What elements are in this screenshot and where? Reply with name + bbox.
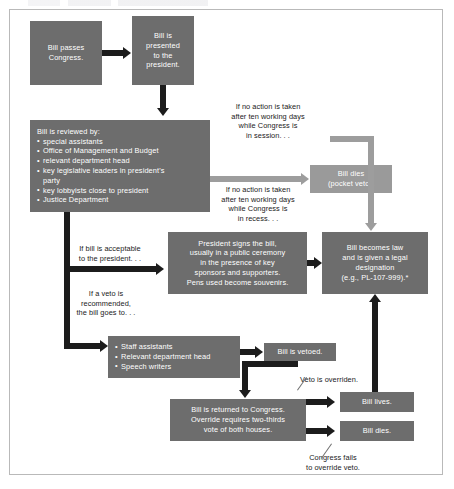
arrow-staff-to-vetoed-head (255, 346, 263, 358)
node-staff-advisors: Staff assistants Relevant department hea… (108, 336, 240, 378)
node-bill-presented-line2: presented (146, 41, 180, 51)
arrow-veto-recommended-head (100, 340, 108, 352)
annotation-recess-line4: in recess. . . (196, 214, 320, 224)
arrow-staff-to-vetoed-shaft (240, 349, 256, 355)
arrow-presented-to-reviewed-head (157, 108, 169, 116)
annotation-congress-fails: Congress fails to override veto. (286, 453, 380, 472)
arrow-acceptable-head (156, 263, 164, 275)
node-bill-returned-to-congress: Bill is returned to Congress. Override r… (170, 399, 306, 441)
node-president-signs-bill: President signs the bill, usually in a p… (168, 232, 307, 294)
node-becomes-law-line2: and is given a legal (342, 253, 407, 263)
annotation-congress-fails-line2: to override veto. (286, 463, 380, 473)
annotation-session-line4: in session. . . (206, 131, 330, 141)
arrow-passes-to-presented-shaft (102, 50, 124, 56)
node-bill-dies-label: Bill dies. (363, 426, 392, 436)
annotation-recess-line1: If no action is taken (196, 185, 320, 195)
annotation-congress-fails-line1: Congress fails (286, 453, 380, 463)
staff-item-0: Staff assistants (115, 342, 211, 352)
node-bill-dies-pocket-line1: Bill dies (338, 169, 364, 179)
review-list: Bill is reviewed by: special assistants … (37, 127, 164, 205)
annotation-acceptable-line2: to the president. . . (58, 254, 162, 264)
node-president-signs-line5: Pens used become souvenirs. (187, 278, 289, 288)
node-president-signs-line2: usually in a public ceremony (190, 248, 286, 258)
node-returned-line3: vote of both houses. (204, 425, 273, 435)
arrow-reviewed-spine-vertical (64, 212, 70, 346)
cropped-title-artifact (28, 0, 208, 6)
annotation-recess-line3: while Congress is (196, 204, 320, 214)
node-bill-vetoed-label: Bill is vetoed. (277, 347, 322, 357)
node-president-signs-line1: President signs the bill, (198, 239, 277, 249)
review-header: Bill is reviewed by: (37, 127, 164, 137)
arrow-reviewed-to-pocket-veto-shaft (210, 176, 302, 182)
arrow-lives-to-law-head (369, 294, 381, 302)
review-item-0: special assistants (37, 137, 164, 147)
node-bill-dies-pocket-veto: Bill dies (pocket veto). (310, 165, 392, 193)
node-returned-line1: Bill is returned to Congress. (191, 405, 285, 415)
diagram-frame: Bill passes Congress. Bill is presented … (9, 9, 443, 475)
arrow-vetoed-to-returned-head (239, 390, 251, 398)
arrow-lives-to-law-shaft (372, 302, 378, 392)
annotation-bill-acceptable: If bill is acceptable to the president. … (58, 244, 162, 263)
arrow-session-down-head (365, 223, 377, 231)
arrow-session-top-shaft (330, 136, 374, 142)
node-becomes-law-line4: (e.g., PL-107-999).* (342, 273, 409, 283)
arrow-signs-to-law-head (314, 257, 322, 269)
annotation-session-line1: If no action is taken (206, 102, 330, 112)
node-bill-presented-line1: Bill is (154, 31, 172, 41)
node-bill-lives-label: Bill lives. (362, 397, 392, 407)
review-item-2: relevant department head (37, 156, 164, 166)
node-bill-presented-to-president: Bill is presented to the president. (132, 16, 194, 85)
arrow-presented-to-reviewed-shaft (160, 85, 166, 109)
node-bill-dies: Bill dies. (340, 421, 414, 441)
annotation-session-line3: while Congress is (206, 121, 330, 131)
staff-item-1: Relevant department head (115, 352, 211, 362)
annotation-no-action-in-session: If no action is taken after ten working … (206, 102, 330, 141)
annotation-acceptable-line1: If bill is acceptable (58, 244, 162, 254)
node-bill-passes-congress-label: Bill passes Congress. (30, 43, 102, 63)
review-item-5: Justice Department (37, 195, 164, 205)
node-bill-presented-line3: to the (153, 51, 172, 61)
node-becomes-law-line3: designation (356, 263, 395, 273)
staff-list: Staff assistants Relevant department hea… (115, 342, 211, 371)
arrow-session-down-shaft (368, 136, 374, 224)
review-item-3-cont: party (37, 176, 164, 186)
arrow-vetoed-to-returned-elbow (242, 361, 298, 367)
review-item-4: key lobbyists close to president (37, 186, 164, 196)
node-bill-presented-line4: president. (146, 60, 179, 70)
review-item-1: Office of Management and Budget (37, 146, 164, 156)
node-becomes-law-line1: Bill becomes law (347, 243, 404, 253)
node-bill-is-vetoed: Bill is vetoed. (264, 343, 336, 361)
node-bill-reviewed-by: Bill is reviewed by: special assistants … (30, 120, 210, 212)
annotation-no-action-in-recess: If no action is taken after ten working … (196, 185, 320, 224)
node-president-signs-line4: sponsors and supporters. (195, 268, 281, 278)
node-bill-passes-congress: Bill passes Congress. (30, 21, 102, 85)
node-president-signs-line3: in the presence of key (200, 258, 275, 268)
arrow-returned-to-lives-head (327, 396, 335, 408)
arrow-returned-to-dies-shaft (306, 428, 328, 434)
staff-item-2: Speech writers (115, 362, 211, 372)
arrow-veto-recommended-shaft (64, 343, 102, 349)
arrow-passes-to-presented-head (123, 47, 131, 59)
node-returned-line2: Override requires two-thirds (191, 415, 285, 425)
arrow-reviewed-to-pocket-veto-head (301, 173, 309, 185)
flowchart-screenshot: Bill passes Congress. Bill is presented … (0, 0, 454, 489)
node-bill-lives: Bill lives. (340, 392, 414, 412)
annotation-session-line2: after ten working days (206, 112, 330, 122)
node-bill-becomes-law: Bill becomes law and is given a legal de… (322, 232, 428, 294)
annotation-recess-line2: after ten working days (196, 195, 320, 205)
arrow-returned-to-lives-shaft (306, 399, 328, 405)
review-item-3: key legislative leaders in president's (37, 166, 164, 176)
arrow-acceptable-shaft (64, 266, 156, 272)
arrow-returned-to-dies-head (327, 425, 335, 437)
